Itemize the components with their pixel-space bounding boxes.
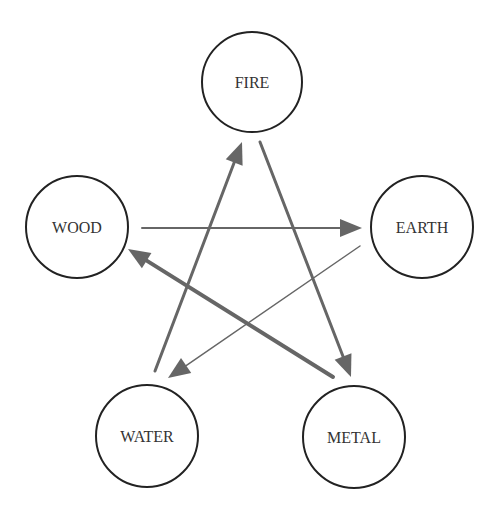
arrow-shaft [186,246,360,366]
node-metal: METAL [303,386,405,488]
arrow-shaft [155,163,234,371]
arrowhead-icon [335,353,352,377]
node-wood: WOOD [26,176,128,278]
edges-layer [128,142,362,378]
node-fire: FIRE [202,32,302,132]
node-label: WOOD [52,219,102,236]
arrowhead-icon [128,249,151,268]
node-label: EARTH [396,219,449,236]
node-label: METAL [327,429,381,446]
arrowhead-icon [168,358,191,378]
node-water: WATER [96,385,198,487]
node-label: FIRE [235,74,270,91]
arrow-wood-to-earth [142,219,362,237]
arrowhead-icon [340,219,362,237]
arrow-shaft [260,142,343,356]
arrow-earth-to-water [168,246,360,378]
node-earth: EARTH [371,176,473,278]
nodes-layer: FIREWOODEARTHWATERMETAL [26,32,473,488]
node-label: WATER [120,428,174,445]
five-elements-diagram: FIREWOODEARTHWATERMETAL [0,0,491,511]
arrowhead-icon [226,142,243,166]
